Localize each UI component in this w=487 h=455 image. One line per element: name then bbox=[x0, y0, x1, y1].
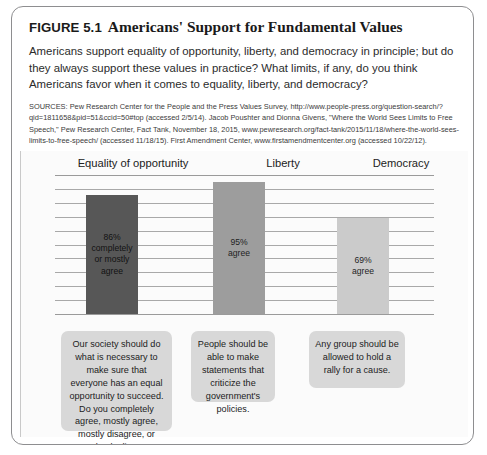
chart-plot-area: 86% completely or mostly agree 95% agree… bbox=[55, 175, 434, 314]
chart-category-label-democracy: Democracy bbox=[341, 157, 461, 169]
bar-value-liberty: 95% bbox=[228, 237, 250, 248]
figure-title: Americans' Support for Fundamental Value… bbox=[108, 18, 403, 35]
bar-qualifier-equality-line2: or mostly bbox=[91, 254, 132, 265]
chart-panel: Equality of opportunity Liberty Democrac… bbox=[20, 151, 467, 437]
chart-category-label-liberty: Liberty bbox=[219, 157, 347, 169]
figure-number: FIGURE 5.1 bbox=[29, 20, 102, 35]
caption-box-democracy: Any group should be allowed to hold a ra… bbox=[309, 331, 405, 388]
figure-description: Americans support equality of opportunit… bbox=[29, 43, 457, 93]
figure-card: FIGURE 5.1Americans' Support for Fundame… bbox=[11, 6, 474, 445]
bar-equality-of-opportunity: 86% completely or mostly agree bbox=[86, 195, 138, 315]
figure-sources: SOURCES: Pew Research Center for the Peo… bbox=[29, 101, 461, 146]
caption-text-liberty: People should be able to make statements… bbox=[197, 338, 269, 415]
figure-title-line: FIGURE 5.1Americans' Support for Fundame… bbox=[29, 19, 459, 36]
gridline-baseline bbox=[55, 314, 434, 315]
bar-qualifier-democracy: agree bbox=[352, 266, 374, 277]
bar-label-equality: 86% completely or mostly agree bbox=[91, 232, 132, 277]
bar-qualifier-equality-line3: agree bbox=[91, 266, 132, 277]
bar-qualifier-liberty: agree bbox=[228, 248, 250, 259]
caption-text-equality: Our society should do what is necessary … bbox=[67, 338, 166, 445]
bar-value-equality: 86% bbox=[91, 232, 132, 243]
bar-liberty: 95% agree bbox=[213, 182, 265, 314]
caption-box-equality: Our society should do what is necessary … bbox=[61, 331, 172, 431]
caption-box-liberty: People should be able to make statements… bbox=[191, 331, 275, 402]
bar-democracy: 69% agree bbox=[337, 218, 389, 314]
figure-header: FIGURE 5.1Americans' Support for Fundame… bbox=[12, 7, 473, 146]
caption-text-democracy: Any group should be allowed to hold a ra… bbox=[315, 338, 399, 377]
bar-label-democracy: 69% agree bbox=[352, 255, 374, 278]
gridline bbox=[55, 175, 434, 176]
bar-label-liberty: 95% agree bbox=[228, 237, 250, 260]
bar-qualifier-equality-line1: completely bbox=[91, 243, 132, 254]
bar-value-democracy: 69% bbox=[352, 255, 374, 266]
chart-category-label-equality: Equality of opportunity bbox=[55, 157, 211, 169]
